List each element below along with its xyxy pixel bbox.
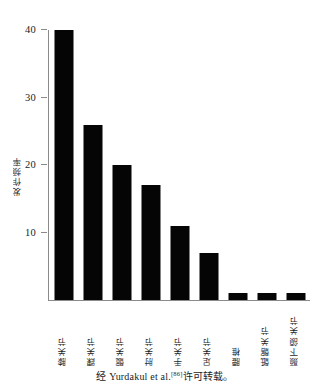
x-axis-label: 骶髂关节 [262, 306, 272, 366]
caption-reference: [86] [171, 370, 183, 377]
bar [141, 185, 160, 300]
y-tick-mark [41, 29, 47, 30]
figure-caption: 经 Yurdakul et al.[86]许可转载。 [0, 368, 330, 383]
bar [112, 165, 131, 300]
bar-series [49, 30, 310, 300]
x-axis-label: 膝关节 [59, 306, 69, 366]
y-tick-label: 10 [0, 225, 36, 240]
y-tick-mark [41, 164, 47, 165]
bar [170, 226, 189, 300]
caption-prefix: 经 Yurdakul et al. [96, 371, 171, 382]
x-axis-label: 踝关节 [88, 306, 98, 366]
bar-slot [194, 30, 223, 300]
x-axis-label: 颞下颌关节 [291, 306, 301, 366]
x-axis-label: 髋关节 [117, 306, 127, 366]
y-tick-label: 40 [0, 22, 36, 37]
x-axis-label: 手关节 [175, 306, 185, 366]
caption-suffix: 许可转载。 [183, 371, 234, 382]
bar [199, 253, 218, 300]
chart-figure: 发作频率 10203040 膝关节踝关节髋关节肘关节手关节足关节腰椎骶髂关节颞下… [0, 0, 330, 390]
bar [257, 293, 276, 300]
y-tick-mark [41, 232, 47, 233]
bar [83, 125, 102, 301]
bar-slot [49, 30, 78, 300]
y-tick-label: 30 [0, 90, 36, 105]
bar-slot [281, 30, 310, 300]
bar-slot [223, 30, 252, 300]
x-axis-label: 肘关节 [146, 306, 156, 366]
x-axis-line [48, 300, 310, 301]
x-axis-label: 足关节 [204, 306, 214, 366]
bar [54, 30, 73, 300]
y-tick-label: 20 [0, 157, 36, 172]
bar-slot [78, 30, 107, 300]
bar-slot [165, 30, 194, 300]
bar-slot [136, 30, 165, 300]
x-axis-label: 腰椎 [233, 306, 243, 366]
bar [228, 293, 247, 300]
y-tick-mark [41, 97, 47, 98]
bar-slot [107, 30, 136, 300]
bar-slot [252, 30, 281, 300]
bar [286, 293, 305, 300]
